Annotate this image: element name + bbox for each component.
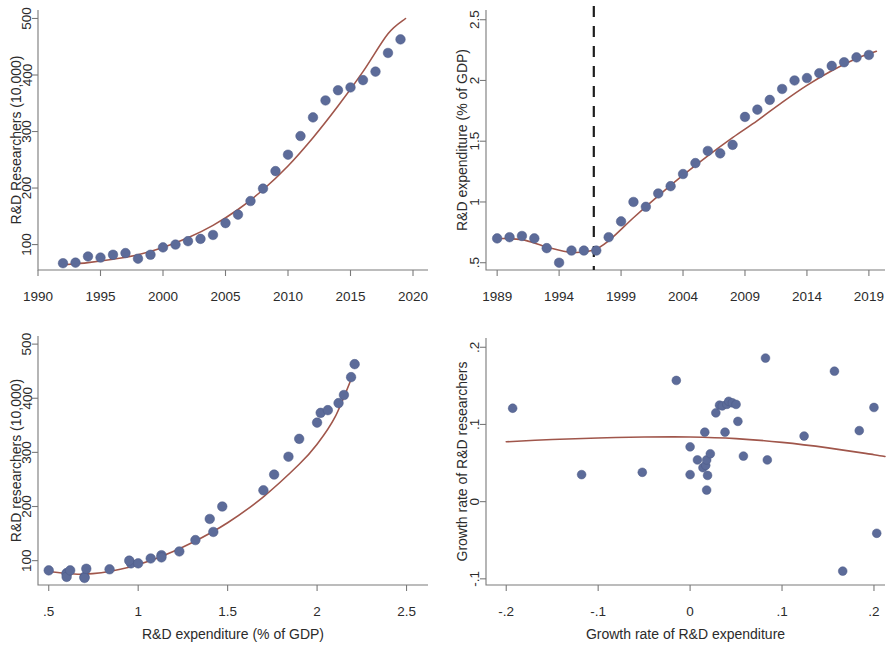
data-point — [294, 434, 304, 444]
data-point — [691, 158, 701, 168]
x-tick-label: -.2 — [498, 604, 514, 619]
data-point — [492, 234, 502, 244]
y-tick-label: 100 — [20, 233, 35, 256]
data-point — [124, 556, 134, 566]
data-point — [133, 559, 143, 569]
data-point — [71, 258, 81, 268]
data-point — [672, 376, 681, 385]
x-tick-label: .5 — [43, 604, 54, 619]
data-point — [542, 243, 552, 253]
y-axis-title: R&D expenditure (% of GDP) — [454, 49, 470, 231]
axis-lines — [38, 10, 428, 270]
data-point — [577, 470, 586, 479]
data-point — [505, 232, 515, 242]
data-point — [629, 197, 639, 207]
data-point — [838, 567, 847, 576]
data-point — [82, 564, 92, 574]
data-point — [271, 166, 281, 176]
x-tick-label: 0 — [686, 604, 694, 619]
x-axis-title: Growth rate of R&D expenditure — [586, 626, 785, 642]
y-tick-label: 500 — [20, 7, 35, 30]
data-point — [80, 573, 90, 583]
data-point — [790, 76, 800, 86]
data-point — [815, 68, 825, 78]
x-tick-label: .1 — [776, 604, 787, 619]
data-point — [765, 95, 775, 105]
y-tick-label: 500 — [20, 333, 35, 356]
data-point — [666, 181, 676, 191]
axis-lines — [38, 336, 428, 585]
panel-bottom-right: -.10.1.2-.2-.10.1.2Growth rate of R&D re… — [446, 322, 891, 645]
x-tick-label: 1990 — [23, 289, 53, 304]
data-point — [334, 398, 344, 408]
data-point — [732, 400, 741, 409]
data-point — [83, 252, 93, 262]
data-point — [734, 417, 743, 426]
y-tick-label: .2 — [468, 342, 483, 353]
data-point — [700, 428, 709, 437]
y-tick-label: 2.5 — [468, 10, 483, 29]
data-point — [108, 250, 118, 260]
data-point — [641, 202, 651, 212]
data-point — [371, 67, 381, 77]
data-point — [346, 83, 356, 93]
x-tick-label: 1 — [134, 604, 142, 619]
panel-top-right: .511.522.51989199419992004200920142019R&… — [446, 0, 891, 322]
x-tick-label: 2005 — [210, 289, 240, 304]
data-point — [44, 566, 54, 576]
data-point — [753, 105, 763, 115]
data-point — [686, 442, 695, 451]
data-point — [830, 367, 839, 376]
panel-bottom-right-canvas: -.10.1.2-.2-.10.1.2Growth rate of R&D re… — [446, 322, 891, 645]
fitted-trend-line — [63, 18, 406, 264]
x-tick-label: 2015 — [335, 289, 365, 304]
data-point — [321, 96, 331, 106]
data-point — [339, 390, 349, 400]
data-point — [65, 566, 75, 576]
data-point — [703, 146, 713, 156]
panel-top-right-canvas: .511.522.51989199419992004200920142019R&… — [446, 0, 891, 322]
data-point — [209, 527, 219, 537]
data-point — [703, 471, 712, 480]
fitted-trend-line — [506, 437, 885, 457]
x-tick-label: 2 — [313, 604, 321, 619]
x-tick-label: -.1 — [590, 604, 606, 619]
data-point — [711, 408, 720, 417]
axis-lines — [486, 338, 885, 585]
data-point — [567, 246, 577, 256]
data-point — [350, 359, 360, 369]
data-layer — [58, 18, 405, 268]
x-tick-label: 2.5 — [397, 604, 416, 619]
data-point — [740, 112, 750, 122]
data-point — [175, 547, 185, 557]
x-tick-label: 1994 — [544, 289, 575, 304]
data-point — [579, 246, 589, 256]
data-point — [296, 131, 306, 141]
data-point — [221, 218, 231, 228]
data-point — [205, 514, 215, 524]
data-point — [638, 468, 647, 477]
data-point — [702, 486, 711, 495]
data-point — [191, 535, 201, 545]
x-tick-label: .2 — [868, 604, 879, 619]
data-point — [728, 140, 738, 150]
x-tick-label: 2014 — [792, 289, 823, 304]
data-point — [283, 150, 293, 160]
data-point — [721, 428, 730, 437]
data-point — [217, 502, 227, 512]
data-point — [233, 210, 243, 220]
data-point — [802, 73, 812, 83]
data-point — [323, 405, 333, 415]
data-point — [706, 449, 715, 458]
data-point — [358, 75, 368, 85]
data-point — [146, 554, 156, 564]
x-tick-label: 1995 — [85, 289, 115, 304]
data-point — [183, 236, 193, 246]
data-point — [133, 254, 143, 264]
data-point — [508, 404, 517, 413]
data-point — [312, 418, 322, 428]
data-point — [246, 196, 256, 206]
data-point — [333, 85, 343, 95]
data-point — [58, 258, 68, 268]
data-point — [761, 354, 770, 363]
